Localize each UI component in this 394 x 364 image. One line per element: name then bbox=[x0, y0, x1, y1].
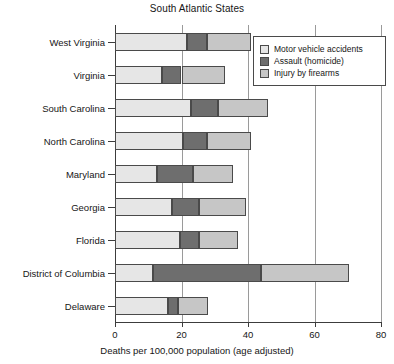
bar-segment bbox=[115, 264, 153, 282]
bar-row bbox=[115, 231, 238, 249]
y-axis-tick-label: Virginia bbox=[73, 70, 105, 81]
y-axis-tick-label: Georgia bbox=[71, 202, 105, 213]
chart-legend: Motor vehicle accidents Assault (homicid… bbox=[253, 36, 386, 86]
legend-item-motor-vehicle-accidents: Motor vehicle accidents bbox=[260, 44, 380, 54]
bar-segment bbox=[207, 33, 252, 51]
y-tick-mark bbox=[108, 240, 115, 241]
bar-segment bbox=[199, 231, 238, 249]
bar-segment bbox=[207, 132, 251, 150]
bar-row bbox=[115, 264, 349, 282]
legend-label: Motor vehicle accidents bbox=[274, 44, 363, 54]
bar-segment bbox=[115, 231, 180, 249]
y-tick-mark bbox=[108, 42, 115, 43]
y-axis-tick-label: Maryland bbox=[66, 169, 105, 180]
x-tick-mark bbox=[315, 322, 316, 327]
bar-segment bbox=[115, 99, 191, 117]
bar-row bbox=[115, 297, 208, 315]
bar-segment bbox=[157, 165, 194, 183]
bar-segment bbox=[187, 33, 206, 51]
legend-label: Injury by firearms bbox=[274, 68, 339, 78]
bar-segment bbox=[182, 66, 225, 84]
y-tick-mark bbox=[108, 141, 115, 142]
bar-segment bbox=[115, 66, 162, 84]
bar-segment bbox=[153, 264, 260, 282]
bar-row bbox=[115, 66, 225, 84]
x-tick-label: 0 bbox=[112, 329, 117, 340]
bar-segment bbox=[115, 165, 157, 183]
legend-swatch-icon bbox=[260, 69, 269, 78]
y-axis-tick-label: Delaware bbox=[65, 301, 105, 312]
x-tick-mark bbox=[248, 322, 249, 327]
bar-segment bbox=[172, 198, 200, 216]
legend-item-assault-homicide: Assault (homicide) bbox=[260, 56, 380, 66]
bar-segment bbox=[180, 231, 200, 249]
y-axis-tick-label: District of Columbia bbox=[23, 268, 105, 279]
y-tick-mark bbox=[108, 207, 115, 208]
bar-segment bbox=[261, 264, 349, 282]
chart-container: South Atlantic States West VirginiaVirgi… bbox=[0, 0, 394, 364]
x-tick-mark bbox=[381, 322, 382, 327]
y-axis-category-labels: West VirginiaVirginiaSouth CarolinaNorth… bbox=[0, 0, 105, 364]
bar-row bbox=[115, 165, 233, 183]
legend-swatch-icon bbox=[260, 45, 269, 54]
x-tick-label: 20 bbox=[176, 329, 187, 340]
bar-row bbox=[115, 33, 251, 51]
bar-row bbox=[115, 132, 251, 150]
x-tick-label: 40 bbox=[243, 329, 254, 340]
bar-row bbox=[115, 198, 246, 216]
bar-row bbox=[115, 99, 268, 117]
x-tick-label: 80 bbox=[376, 329, 387, 340]
bar-segment bbox=[168, 297, 178, 315]
y-axis-tick-label: North Carolina bbox=[44, 136, 105, 147]
bar-segment bbox=[191, 99, 218, 117]
legend-label: Assault (homicide) bbox=[274, 56, 344, 66]
y-tick-mark bbox=[108, 306, 115, 307]
x-axis-title: Deaths per 100,000 population (age adjus… bbox=[0, 345, 394, 356]
legend-item-injury-by-firearms: Injury by firearms bbox=[260, 68, 380, 78]
bar-segment bbox=[115, 33, 187, 51]
bar-segment bbox=[115, 132, 183, 150]
y-axis-tick-label: West Virginia bbox=[49, 37, 105, 48]
y-tick-mark bbox=[108, 108, 115, 109]
legend-swatch-icon bbox=[260, 57, 269, 66]
y-axis-tick-label: South Carolina bbox=[42, 103, 105, 114]
x-tick-label: 60 bbox=[309, 329, 320, 340]
bar-segment bbox=[183, 132, 206, 150]
bar-segment bbox=[162, 66, 182, 84]
y-tick-mark bbox=[108, 273, 115, 274]
y-tick-mark bbox=[108, 174, 115, 175]
bar-segment bbox=[193, 165, 233, 183]
y-axis-tick-label: Florida bbox=[76, 235, 105, 246]
x-tick-mark bbox=[182, 322, 183, 327]
bar-segment bbox=[178, 297, 208, 315]
bar-segment bbox=[115, 198, 172, 216]
bar-segment bbox=[199, 198, 246, 216]
x-tick-mark bbox=[115, 322, 116, 327]
bar-segment bbox=[115, 297, 168, 315]
y-tick-mark bbox=[108, 75, 115, 76]
bar-segment bbox=[218, 99, 268, 117]
